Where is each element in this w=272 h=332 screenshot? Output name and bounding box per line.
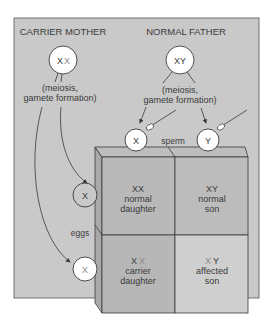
mother-meiosis-label-2: gamete formation) <box>23 93 96 103</box>
svg-text:X: X <box>82 191 88 201</box>
father-meiosis-label-2: gamete formation) <box>143 95 216 105</box>
cell-4-line1: affected <box>196 266 228 276</box>
egg-x-mutant: X <box>73 257 97 281</box>
cell-2-genotype: XY <box>206 184 218 194</box>
cell-3-line1: carrier <box>125 266 151 276</box>
svg-text:X: X <box>57 56 63 66</box>
cell-1-line1: normal <box>124 194 152 204</box>
cell-4-line2: son <box>205 276 220 286</box>
punnett-square-diagram: CARRIER MOTHER NORMAL FATHER X X (meiosi… <box>0 0 272 332</box>
cell-2-line2: son <box>205 204 220 214</box>
carrier-mother-title: CARRIER MOTHER <box>20 26 107 37</box>
cell-2-line1: normal <box>198 194 226 204</box>
svg-text:XY: XY <box>174 56 186 66</box>
normal-father-title: NORMAL FATHER <box>146 26 226 37</box>
svg-text:Y: Y <box>205 136 211 146</box>
cell-1-genotype: XX <box>132 184 144 194</box>
svg-text:X: X <box>82 265 88 275</box>
eggs-label: eggs <box>71 228 89 238</box>
cell-3-line2: daughter <box>120 276 156 286</box>
cell-3-genotype-b: X <box>139 256 145 266</box>
father-meiosis-label-1: (meiosis, <box>162 85 198 95</box>
sperm-label: sperm <box>161 136 185 146</box>
cell-4-genotype-b: Y <box>213 256 219 266</box>
cell-4-genotype-a: X <box>205 256 211 266</box>
mother-meiosis-label-1: (meiosis, <box>42 83 78 93</box>
cell-1-line2: daughter <box>120 204 156 214</box>
cell-3-genotype-a: X <box>131 256 137 266</box>
svg-text:X: X <box>133 136 139 146</box>
egg-x-normal: X <box>73 183 97 207</box>
svg-text:X: X <box>64 56 70 66</box>
